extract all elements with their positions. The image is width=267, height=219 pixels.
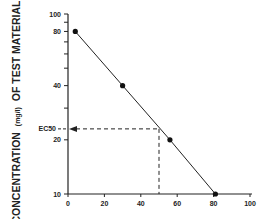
y-tick-label: 10 [53,191,61,198]
y-tick-label: 100 [49,11,61,18]
x-tick-label: 0 [66,200,70,207]
y-tick-label: 20 [53,136,61,143]
data-point [213,191,218,196]
data-point [167,137,172,142]
y-tick-label: 80 [53,28,61,35]
x-tick-label: 60 [173,200,181,207]
x-tick-labels: 020406080100 [66,200,256,207]
y-axis-label-rest: OF TEST MATERIAL [10,0,22,101]
data-line [75,31,215,194]
data-point [73,29,78,34]
y-axis-label-unit: (mg/l) [14,107,22,126]
x-tick-label: 20 [101,200,109,207]
y-tick-labels: 10204080100 [49,11,61,198]
x-tick-label: 80 [210,200,218,207]
data-point [120,83,125,88]
x-tick-label: 40 [137,200,145,207]
y-axis-label-main: CONCENTRATION [10,132,22,219]
x-tick-label: 100 [244,200,256,207]
chart: CONCENTRATION (mg/l) OF TEST MATERIAL 10… [0,0,267,219]
ec50-label: EC50 [38,125,56,132]
ec50-arrow-icon [69,126,77,132]
y-tick-label: 40 [53,82,61,89]
svg-text:CONCENTRATION (mg/l): CONCENTRATION (mg/l) OF TEST MATERIAL [10,0,22,219]
y-axis-label: CONCENTRATION (mg/l) OF TEST MATERIAL [10,0,22,219]
